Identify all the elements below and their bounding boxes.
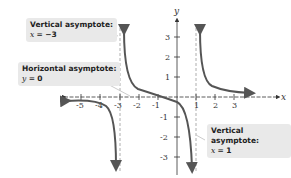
svg-text:-2: -2 — [160, 133, 168, 142]
svg-text:-3: -3 — [114, 101, 122, 110]
svg-text:3: 3 — [232, 101, 237, 110]
x-axis-label: x — [281, 92, 286, 102]
curve-right-branch — [200, 30, 250, 93]
callout-horizontal-asymptote: Horizontal asymptote: y = 0 — [18, 62, 120, 86]
svg-text:1: 1 — [165, 73, 170, 82]
curve-left-branch — [66, 101, 116, 166]
svg-text:1: 1 — [194, 101, 199, 110]
callout-vertical-asymptote-left: Vertical asymptote: x = −3 — [26, 18, 117, 42]
svg-text:-1: -1 — [152, 101, 160, 110]
svg-text:-1: -1 — [160, 113, 168, 122]
svg-text:3: 3 — [165, 33, 170, 42]
y-axis-label: y — [173, 6, 180, 16]
svg-text:-5: -5 — [76, 101, 84, 110]
svg-text:-2: -2 — [133, 101, 141, 110]
svg-text:-3: -3 — [160, 153, 168, 162]
svg-text:2: 2 — [213, 101, 218, 110]
svg-text:2: 2 — [165, 53, 170, 62]
callout-vertical-asymptote-right: Vertical asymptote: x = 1 — [207, 124, 291, 158]
